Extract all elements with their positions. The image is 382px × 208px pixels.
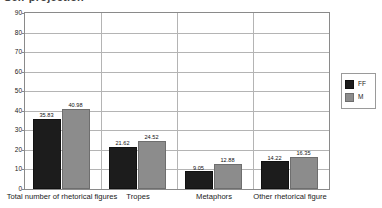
bar-value-label: 14.22 bbox=[268, 156, 282, 162]
y-axis-tick-mark bbox=[22, 33, 25, 34]
x-axis-category-label: Metaphors bbox=[196, 193, 232, 201]
y-axis-tick-mark bbox=[22, 130, 25, 131]
x-axis-labels: Total number of rhetorical figuresTropes… bbox=[0, 193, 382, 208]
category-separator bbox=[101, 13, 102, 189]
bar-value-label: 9.05 bbox=[193, 166, 204, 172]
y-axis-tick-mark bbox=[22, 169, 25, 170]
legend-label: FF bbox=[358, 81, 366, 88]
y-axis-tick-label: 20 bbox=[15, 147, 22, 154]
bar-m-1: 24.52 bbox=[138, 141, 166, 189]
y-axis-tick-mark bbox=[22, 189, 25, 190]
legend-label: M bbox=[358, 94, 363, 101]
x-axis-category-label: Total number of rhetorical figures bbox=[7, 193, 118, 201]
bar-value-label: 21.62 bbox=[116, 141, 130, 147]
y-axis-tick-mark bbox=[22, 13, 25, 14]
y-axis-tick-label: 70 bbox=[15, 49, 22, 56]
y-axis-tick-label: 50 bbox=[15, 88, 22, 95]
bar-value-label: 12.88 bbox=[221, 158, 235, 164]
x-axis-category-label: Other rhetorical figure bbox=[253, 193, 326, 201]
bar-value-label: 40.98 bbox=[69, 103, 83, 109]
legend-swatch-m bbox=[345, 93, 354, 102]
y-axis-tick-mark bbox=[22, 150, 25, 151]
chart-title: Self-projection bbox=[4, 0, 84, 3]
y-axis-tick-mark bbox=[22, 72, 25, 73]
plot-area: 010203040506070809035.8340.9821.6224.529… bbox=[24, 12, 330, 190]
bar-value-label: 35.83 bbox=[40, 113, 54, 119]
bar-m-3: 16.35 bbox=[290, 157, 318, 189]
y-axis-tick-label: 80 bbox=[15, 29, 22, 36]
y-axis-tick-mark bbox=[22, 111, 25, 112]
y-axis-tick-label: 60 bbox=[15, 68, 22, 75]
legend-item-m: M bbox=[345, 91, 372, 104]
y-axis-tick-label: 90 bbox=[15, 10, 22, 17]
y-axis-tick-mark bbox=[22, 91, 25, 92]
chart-legend: FFM bbox=[341, 73, 376, 109]
category-separator bbox=[253, 13, 254, 189]
legend-swatch-ff bbox=[345, 80, 354, 89]
x-axis-category-label: Tropes bbox=[126, 193, 149, 201]
bar-m-0: 40.98 bbox=[62, 109, 90, 189]
legend-item-ff: FF bbox=[345, 78, 372, 91]
bar-ff-0: 35.83 bbox=[33, 119, 61, 189]
y-axis-tick-label: 30 bbox=[15, 127, 22, 134]
bar-value-label: 24.52 bbox=[145, 135, 159, 141]
bar-ff-1: 21.62 bbox=[109, 147, 137, 189]
bar-value-label: 16.35 bbox=[297, 151, 311, 157]
bar-ff-3: 14.22 bbox=[261, 161, 289, 189]
bar-m-2: 12.88 bbox=[214, 164, 242, 189]
category-separator bbox=[177, 13, 178, 189]
y-axis-tick-label: 40 bbox=[15, 108, 22, 115]
bar-ff-2: 9.05 bbox=[185, 171, 213, 189]
y-axis-tick-mark bbox=[22, 52, 25, 53]
y-axis-tick-label: 10 bbox=[15, 166, 22, 173]
